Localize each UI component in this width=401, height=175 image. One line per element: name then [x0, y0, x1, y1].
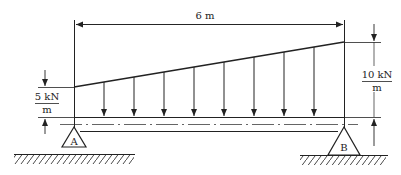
span-dimension: 6 m — [76, 10, 343, 25]
beam-diagram: 6 m 5 kN m 10 kN m — [0, 0, 401, 175]
support-b-label: B — [340, 142, 347, 153]
right-load-value: 10 kN — [362, 69, 393, 80]
load-arrows — [104, 47, 314, 116]
left-load-unit: m — [42, 104, 52, 115]
left-load-value: 5 kN — [35, 91, 60, 102]
span-label: 6 m — [195, 10, 215, 21]
beam — [60, 118, 358, 132]
support-a-label: A — [69, 136, 78, 147]
support-b: B — [300, 127, 388, 165]
right-load-unit: m — [372, 82, 382, 93]
load-envelope — [74, 42, 344, 87]
extension-lines — [75, 20, 345, 128]
right-load-dimension: 10 kN m — [344, 24, 393, 146]
support-a: A — [14, 127, 135, 164]
